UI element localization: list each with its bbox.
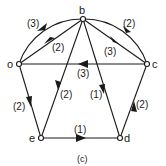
graph-diagram: (3) (2) (2) (3) (3) (2) (1) (2) (1) (2) … [0,0,166,166]
weight-b-c: (3) [104,46,116,57]
arrow-e-d-icon [76,134,86,142]
node-label-e: e [29,132,35,144]
figure-caption: (c) [77,154,88,164]
node-e [39,136,44,141]
node-o [17,62,22,67]
node-d [118,136,123,141]
weight-d-c: (2) [136,99,148,110]
weight-c-b: (2) [123,18,135,29]
arrow-o-e-icon [26,96,32,107]
weight-o-b: (2) [52,42,64,53]
node-label-c: c [152,58,158,70]
node-label-o: o [7,58,13,70]
weight-o-e: (2) [13,101,25,112]
node-label-b: b [79,4,85,16]
node-label-d: d [124,132,130,144]
node-c [145,62,150,67]
weight-b-d: (1) [90,89,102,100]
arrow-c-o-icon [78,60,88,68]
weight-e-d: (1) [74,124,86,135]
weight-c-o: (3) [77,68,89,79]
node-b [81,17,86,22]
weight-b-e: (2) [60,89,72,100]
weight-b-o: (3) [27,18,39,29]
